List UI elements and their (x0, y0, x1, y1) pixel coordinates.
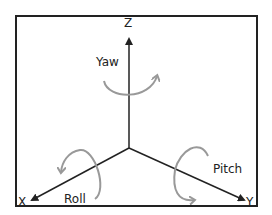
pitch-label: Pitch (213, 163, 242, 175)
yaw-label: Yaw (96, 56, 119, 68)
y-axis-label: Y (246, 196, 253, 208)
roll-label: Roll (64, 193, 86, 205)
axes-diagram (0, 0, 272, 215)
x-axis-label: X (18, 196, 26, 208)
z-axis-label: Z (124, 17, 132, 29)
pitch-rotation-icon (174, 147, 208, 200)
yaw-rotation-icon (104, 76, 157, 95)
